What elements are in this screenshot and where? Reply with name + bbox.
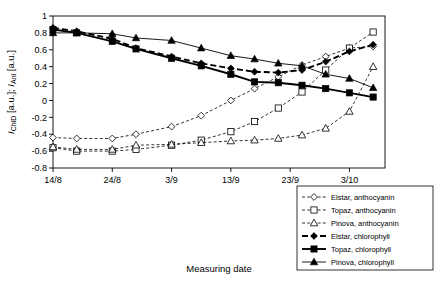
x-tick-label: 3/10 — [341, 175, 359, 185]
data-point — [311, 207, 317, 213]
data-point — [299, 82, 305, 88]
x-tick-label: 13/9 — [222, 175, 240, 185]
legend-label: Elstar, chlorophyll — [331, 232, 390, 241]
y-tick-label: -0.4 — [31, 129, 47, 139]
legend-label: Topaz, anthocyanin — [331, 206, 396, 215]
x-tick-label: 24/8 — [104, 175, 122, 185]
data-point — [228, 71, 234, 77]
data-point — [323, 86, 329, 92]
data-point — [133, 46, 139, 52]
legend-item-2: Topaz, anthocyanin — [302, 206, 396, 215]
chart-figure: 10.80.60.40.20-0.2-0.4-0.6-0.814/824/83/… — [0, 0, 440, 293]
x-tick-label: 23/9 — [281, 175, 299, 185]
data-point — [109, 38, 115, 44]
data-point — [370, 94, 376, 100]
data-point — [275, 105, 281, 111]
x-axis-title: Measuring date — [186, 263, 251, 274]
legend-label: Pinova, anthocyanin — [331, 219, 399, 228]
data-point — [370, 29, 376, 35]
data-point — [311, 246, 317, 252]
y-tick-label: 0.4 — [34, 62, 47, 72]
y-tick-label: -0.6 — [31, 146, 47, 156]
legend-label: Elstar, anthocyanin — [331, 193, 394, 202]
data-point — [251, 118, 257, 124]
y-tick-label: 1 — [42, 11, 47, 21]
data-point — [346, 90, 352, 96]
data-point — [251, 79, 257, 85]
legend-label: Topaz, chlorophyll — [331, 245, 391, 254]
data-point — [168, 55, 174, 61]
y-tick-label: 0.8 — [34, 28, 47, 38]
chart-canvas: 10.80.60.40.20-0.2-0.4-0.6-0.814/824/83/… — [0, 0, 440, 293]
data-point — [275, 80, 281, 86]
legend-label: Pinova, chlorophyll — [331, 258, 394, 267]
x-tick-label: 14/8 — [44, 175, 62, 185]
data-point — [299, 89, 305, 95]
x-tick-label: 3/9 — [165, 175, 178, 185]
y-tick-label: -0.8 — [31, 163, 47, 173]
y-axis-title: IChlD [a.u.]; IAnl [a.u.] — [5, 50, 17, 134]
data-point — [198, 63, 204, 69]
y-tick-label: 0 — [42, 96, 47, 106]
y-tick-label: -0.2 — [31, 113, 47, 123]
x-axis: 14/824/83/913/923/93/10 — [44, 168, 358, 185]
y-tick-label: 0.2 — [34, 79, 47, 89]
data-point — [228, 129, 234, 135]
y-tick-label: 0.6 — [34, 45, 47, 55]
